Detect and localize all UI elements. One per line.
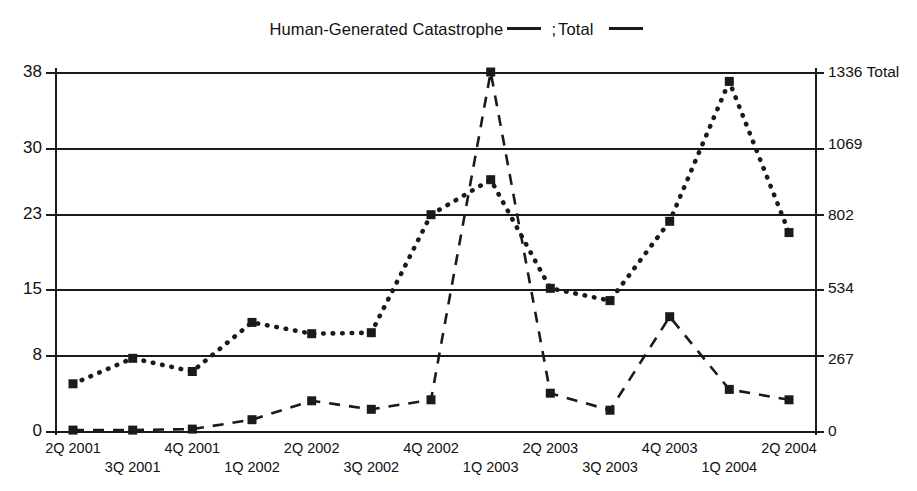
data-point-1-8 bbox=[546, 284, 555, 293]
y-tick-left-23 bbox=[46, 214, 55, 216]
series-line-total bbox=[73, 81, 789, 383]
data-point-1-0 bbox=[69, 379, 78, 388]
data-point-1-9 bbox=[606, 296, 615, 305]
x-axis-label-1q-2004: 1Q 2004 bbox=[702, 459, 758, 475]
data-point-0-12 bbox=[785, 395, 794, 404]
data-point-0-1 bbox=[128, 426, 137, 435]
data-point-1-12 bbox=[785, 228, 794, 237]
y-tick-left-38 bbox=[46, 72, 55, 74]
x-axis-label-2q-2004: 2Q 2004 bbox=[761, 440, 817, 456]
x-axis-label-4q-2003: 4Q 2003 bbox=[642, 440, 698, 456]
y-axis-left-label-3: 23 bbox=[23, 204, 42, 224]
data-point-1-1 bbox=[128, 354, 137, 363]
plot-area: 0815233038 026753480210691336 Total 2Q 2… bbox=[55, 72, 815, 431]
x-axis-label-1q-2003: 1Q 2003 bbox=[463, 459, 519, 475]
y-tick-right-2 bbox=[815, 289, 824, 291]
y-axis-left-label-2: 15 bbox=[23, 279, 42, 299]
x-axis-label-2q-2003: 2Q 2003 bbox=[523, 440, 579, 456]
data-point-0-8 bbox=[546, 389, 555, 398]
x-axis-label-2q-2001: 2Q 2001 bbox=[45, 440, 101, 456]
dashed-line-swatch bbox=[507, 27, 541, 30]
data-point-0-11 bbox=[725, 385, 734, 394]
y-axis-left-label-0: 0 bbox=[33, 421, 42, 441]
data-point-1-6 bbox=[427, 210, 436, 219]
x-axis-label-1q-2002: 1Q 2002 bbox=[224, 459, 280, 475]
data-point-0-0 bbox=[69, 426, 78, 435]
y-axis-right-label-3: 802 bbox=[828, 206, 854, 224]
data-point-0-3 bbox=[248, 415, 257, 424]
legend-separator: ; bbox=[551, 20, 556, 39]
y-tick-right-0 bbox=[815, 431, 824, 433]
dotted-line-swatch bbox=[609, 27, 643, 30]
series-line-human-generated-catastrophe bbox=[73, 72, 789, 430]
y-axis-left-label-1: 8 bbox=[33, 345, 42, 365]
gridline-0 bbox=[55, 431, 815, 433]
y-axis-left-label-5: 38 bbox=[23, 62, 42, 82]
y-tick-right-3 bbox=[815, 214, 824, 216]
chart-container: Human-Generated Catastrophe ; Total 0815… bbox=[0, 0, 917, 491]
y-tick-left-0 bbox=[46, 431, 55, 433]
y-tick-right-4 bbox=[815, 148, 824, 150]
data-point-1-3 bbox=[248, 318, 257, 327]
y-axis-right-label-4: 1069 bbox=[828, 135, 862, 153]
y-axis-right-label-5: 1336 Total bbox=[828, 63, 899, 81]
x-axis-label-4q-2002: 4Q 2002 bbox=[403, 440, 459, 456]
x-axis-label-2q-2002: 2Q 2002 bbox=[284, 440, 340, 456]
data-point-0-6 bbox=[427, 395, 436, 404]
data-point-1-5 bbox=[367, 328, 376, 337]
data-point-0-9 bbox=[606, 406, 615, 415]
x-axis-label-3q-2003: 3Q 2003 bbox=[582, 459, 638, 475]
data-point-0-7 bbox=[486, 68, 495, 77]
y-axis-left-label-4: 30 bbox=[23, 138, 42, 158]
y-tick-left-8 bbox=[46, 355, 55, 357]
legend-label-total: Total bbox=[558, 20, 593, 39]
data-point-1-4 bbox=[307, 329, 316, 338]
x-axis-label-3q-2002: 3Q 2002 bbox=[344, 459, 400, 475]
y-axis-right-line bbox=[815, 68, 817, 435]
y-tick-right-1 bbox=[815, 355, 824, 357]
legend-label-human-generated: Human-Generated Catastrophe bbox=[270, 20, 504, 39]
chart-legend: Human-Generated Catastrophe ; Total bbox=[0, 20, 917, 39]
data-point-0-4 bbox=[307, 396, 316, 405]
y-tick-right-5 bbox=[815, 72, 824, 74]
data-point-1-2 bbox=[188, 367, 197, 376]
y-axis-right-label-2: 534 bbox=[828, 279, 854, 297]
data-point-0-10 bbox=[665, 312, 674, 321]
y-axis-right-label-0: 0 bbox=[828, 422, 837, 440]
data-point-1-11 bbox=[725, 77, 734, 86]
data-point-1-10 bbox=[665, 217, 674, 226]
y-axis-right-label-1: 267 bbox=[828, 350, 854, 368]
data-point-1-7 bbox=[486, 175, 495, 184]
y-tick-left-30 bbox=[46, 148, 55, 150]
y-tick-left-15 bbox=[46, 289, 55, 291]
x-axis-label-4q-2001: 4Q 2001 bbox=[165, 440, 221, 456]
data-point-0-2 bbox=[188, 425, 197, 434]
x-axis-label-3q-2001: 3Q 2001 bbox=[105, 459, 161, 475]
data-point-0-5 bbox=[367, 405, 376, 414]
series-layer bbox=[55, 72, 815, 431]
